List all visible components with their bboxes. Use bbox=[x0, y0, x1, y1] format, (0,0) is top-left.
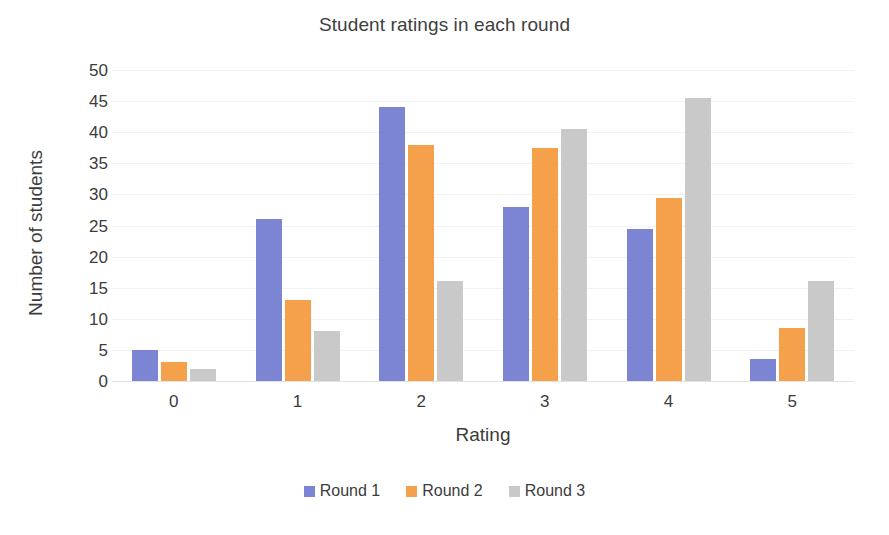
legend-swatch-icon bbox=[406, 486, 417, 497]
plot-area bbox=[112, 70, 854, 381]
legend-label: Round 3 bbox=[525, 482, 586, 500]
bar-round-1-2[interactable] bbox=[379, 107, 405, 381]
x-axis-tick-3: 3 bbox=[483, 392, 607, 412]
legend-swatch-icon bbox=[304, 486, 315, 497]
bar-group-1 bbox=[236, 70, 360, 381]
y-axis-tick-30: 30 bbox=[50, 186, 108, 203]
bar-round-3-5[interactable] bbox=[808, 281, 834, 381]
bar-round-2-2[interactable] bbox=[408, 145, 434, 381]
x-axis-tick-2: 2 bbox=[359, 392, 483, 412]
chart-title: Student ratings in each round bbox=[0, 14, 889, 36]
legend-item-round-2[interactable]: Round 2 bbox=[406, 482, 483, 500]
bar-group-2 bbox=[359, 70, 483, 381]
axis-baseline bbox=[112, 381, 854, 382]
bar-round-1-0[interactable] bbox=[132, 350, 158, 381]
x-axis-title: Rating bbox=[112, 424, 854, 446]
x-axis-tick-4: 4 bbox=[607, 392, 731, 412]
bar-chart: Student ratings in each round Number of … bbox=[0, 0, 889, 535]
legend-label: Round 2 bbox=[422, 482, 483, 500]
bar-group-3 bbox=[483, 70, 607, 381]
x-axis-tick-0: 0 bbox=[112, 392, 236, 412]
bar-groups bbox=[112, 70, 854, 381]
x-axis-tick-5: 5 bbox=[730, 392, 854, 412]
legend-item-round-3[interactable]: Round 3 bbox=[509, 482, 586, 500]
bar-round-3-0[interactable] bbox=[190, 369, 216, 381]
bar-group-4 bbox=[607, 70, 731, 381]
y-axis-tick-50: 50 bbox=[50, 62, 108, 79]
bar-round-2-0[interactable] bbox=[161, 362, 187, 381]
legend-swatch-icon bbox=[509, 486, 520, 497]
y-axis-title: Number of students bbox=[25, 103, 47, 363]
y-axis-tick-25: 25 bbox=[50, 217, 108, 234]
y-axis-tick-40: 40 bbox=[50, 124, 108, 141]
bar-round-1-3[interactable] bbox=[503, 207, 529, 381]
bar-round-2-1[interactable] bbox=[285, 300, 311, 381]
bar-round-3-2[interactable] bbox=[437, 281, 463, 381]
bar-round-1-5[interactable] bbox=[750, 359, 776, 381]
bar-round-2-3[interactable] bbox=[532, 148, 558, 381]
bar-round-3-3[interactable] bbox=[561, 129, 587, 381]
bar-round-2-4[interactable] bbox=[656, 198, 682, 381]
y-axis-tick-15: 15 bbox=[50, 279, 108, 296]
bar-round-3-1[interactable] bbox=[314, 331, 340, 381]
bar-group-0 bbox=[112, 70, 236, 381]
y-axis-tick-5: 5 bbox=[50, 341, 108, 358]
y-axis-tick-45: 45 bbox=[50, 93, 108, 110]
bar-round-1-4[interactable] bbox=[627, 229, 653, 381]
bar-round-2-5[interactable] bbox=[779, 328, 805, 381]
bar-group-5 bbox=[730, 70, 854, 381]
y-axis-tick-10: 10 bbox=[50, 310, 108, 327]
legend-item-round-1[interactable]: Round 1 bbox=[304, 482, 381, 500]
x-axis-tick-labels: 012345 bbox=[112, 392, 854, 412]
y-axis-tick-0: 0 bbox=[50, 373, 108, 390]
y-axis-tick-35: 35 bbox=[50, 155, 108, 172]
bar-round-3-4[interactable] bbox=[685, 98, 711, 381]
bar-round-1-1[interactable] bbox=[256, 219, 282, 381]
chart-legend: Round 1Round 2Round 3 bbox=[0, 482, 889, 500]
legend-label: Round 1 bbox=[320, 482, 381, 500]
y-axis-tick-20: 20 bbox=[50, 248, 108, 265]
x-axis-tick-1: 1 bbox=[236, 392, 360, 412]
y-axis-tick-labels: 50454035302520151050 bbox=[50, 70, 108, 381]
